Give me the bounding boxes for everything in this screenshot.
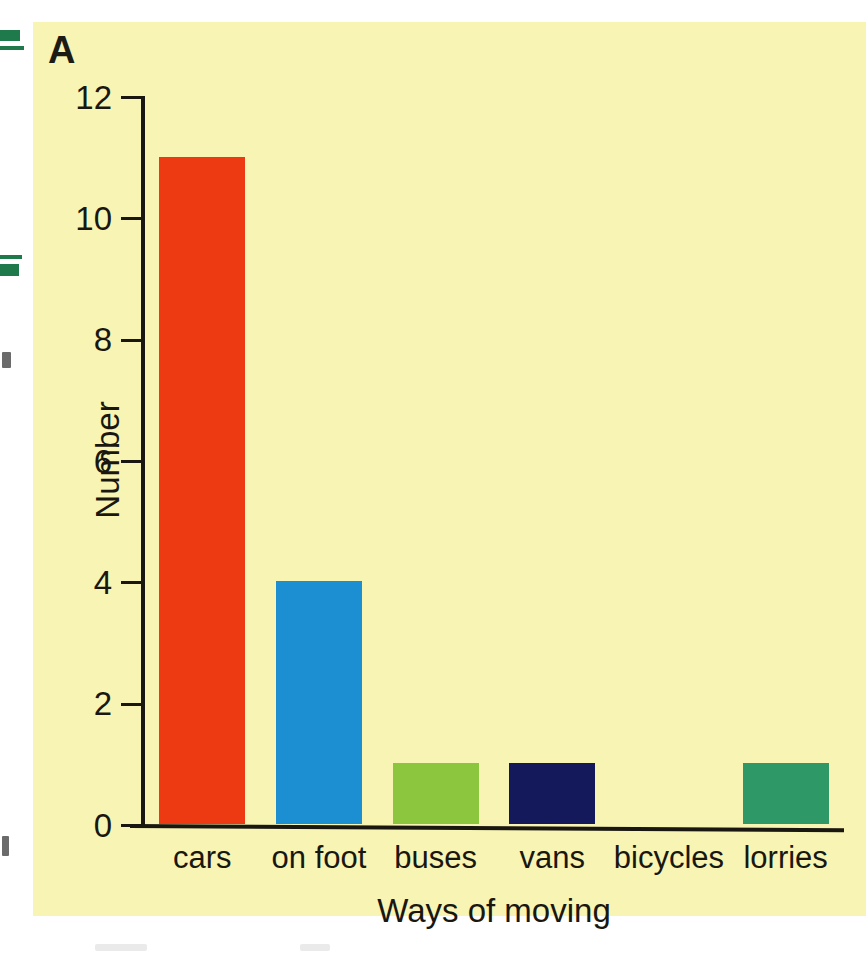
panel-label: A [48, 29, 76, 72]
x-tick-label-vans: vans [494, 840, 611, 876]
bar-cars [159, 157, 245, 824]
bar-chart-plot-area: Number 024681012 carson footbusesvansbic… [144, 96, 844, 824]
y-tick-label-12: 12 [75, 79, 112, 117]
margin-green-rule-top [0, 46, 24, 50]
margin-green-mark-mid [0, 264, 19, 276]
y-tick-label-2: 2 [94, 685, 112, 723]
x-axis-line [130, 824, 844, 832]
y-tick-8: 8 [121, 339, 141, 342]
figure-panel: A Number 024681012 carson footbusesvansb… [33, 22, 866, 916]
x-axis-title: Ways of moving [144, 892, 844, 930]
margin-green-mark-top [0, 30, 20, 41]
bar-buses [393, 763, 479, 824]
x-tick-label-bicycles: bicycles [611, 840, 728, 876]
y-tick-6: 6 [121, 460, 141, 463]
y-tick-label-8: 8 [94, 321, 112, 359]
y-axis-line [141, 96, 145, 828]
margin-glyph-fragment-upper [2, 352, 11, 368]
page-margin [0, 0, 33, 959]
bar-vans [509, 763, 595, 824]
y-tick-12: 12 [121, 96, 141, 99]
y-tick-4: 4 [121, 581, 141, 584]
bar-on-foot [276, 581, 362, 824]
margin-glyph-fragment-lower [2, 836, 9, 856]
footer-smudge-left [95, 944, 147, 951]
x-tick-label-cars: cars [144, 840, 261, 876]
x-tick-label-lorries: lorries [727, 840, 844, 876]
margin-green-rule-mid [0, 255, 22, 259]
y-tick-label-6: 6 [94, 443, 112, 481]
y-tick-label-10: 10 [75, 200, 112, 238]
y-tick-2: 2 [121, 703, 141, 706]
y-tick-10: 10 [121, 217, 141, 220]
x-tick-label-on-foot: on foot [261, 840, 378, 876]
footer-smudge-right [300, 944, 330, 951]
y-tick-label-0: 0 [94, 807, 112, 845]
x-tick-label-buses: buses [377, 840, 494, 876]
bar-lorries [743, 763, 829, 824]
y-tick-label-4: 4 [94, 564, 112, 602]
y-tick-0: 0 [121, 824, 141, 827]
